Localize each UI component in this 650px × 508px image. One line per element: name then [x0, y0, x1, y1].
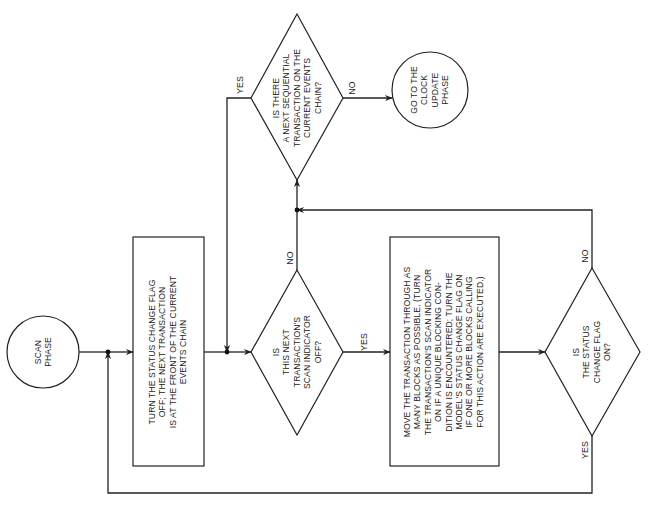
- junction-dot: [225, 350, 230, 355]
- edge-label-next-yes: YES: [235, 76, 245, 94]
- clock-update-label: GO TO THE CLOCK UPDATE PHASE: [409, 66, 451, 114]
- edge-label-status-yes: YES: [580, 441, 590, 459]
- scan-phase-label: SCAN PHASE: [33, 337, 54, 367]
- flowchart-canvas: [0, 0, 650, 508]
- reset-flag-label: TURN THE STATUS CHANGE FLAG OFF; THE NEX…: [147, 276, 189, 429]
- connector-next-yes: [227, 98, 251, 352]
- junction-dot: [295, 208, 300, 213]
- edge-label-next-no: NO: [347, 81, 357, 94]
- next-sequential-label: IS THERE A NEXT SEQUENTIAL TRANSACTION O…: [271, 49, 323, 147]
- move-transaction-label: MOVE THE TRANSACTION THROUGH AS MANY BLO…: [402, 267, 485, 438]
- edge-label-scan-yes: YES: [359, 333, 369, 351]
- edge-label-status-no: NO: [580, 249, 590, 262]
- status-flag-label: IS THE STATUS CHANGE FLAG ON?: [571, 321, 613, 384]
- edge-label-scan-no: NO: [285, 251, 295, 264]
- scan-indicator-label: IS THIS NEXT TRANSACTION'S SCAN INDICATO…: [271, 315, 323, 389]
- junction-dot: [106, 350, 111, 355]
